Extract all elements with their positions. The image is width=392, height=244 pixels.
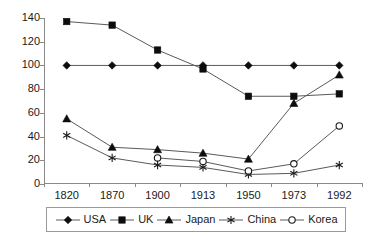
y-axis-tick-label: 80 — [12, 83, 40, 94]
x-axis-tick-label: 1820 — [45, 190, 89, 201]
legend-marker-filled-triangle — [156, 214, 182, 226]
chart-legend: USAUKJapanChinaKorea — [46, 207, 346, 232]
data-point-korea — [245, 168, 251, 174]
legend-item-japan[interactable]: Japan — [156, 214, 215, 226]
x-axis-tick-label: 1973 — [272, 190, 316, 201]
y-axis-tick-label: 0 — [12, 178, 40, 189]
y-axis-tick-label: 60 — [12, 107, 40, 118]
legend-label: Korea — [308, 214, 337, 225]
x-axis-tick-label: 1913 — [181, 190, 225, 201]
plot-area — [44, 18, 362, 184]
data-point-uk — [109, 22, 115, 28]
x-axis-tick-label: 1992 — [317, 190, 361, 201]
data-point-japan — [290, 99, 298, 106]
data-point-usa — [245, 62, 253, 70]
data-point-korea — [336, 123, 342, 129]
series-line-korea — [158, 126, 340, 171]
series-line-japan — [67, 75, 340, 159]
legend-marker-asterisk — [218, 214, 244, 226]
y-axis-tick-label: 120 — [12, 36, 40, 47]
y-axis-tick-label: 20 — [12, 154, 40, 165]
x-axis-tick-label: 1870 — [90, 190, 134, 201]
data-point-korea — [200, 158, 206, 164]
legend-marker-filled-diamond — [55, 214, 81, 226]
data-point-usa — [335, 62, 343, 70]
legend-label: Japan — [185, 214, 215, 225]
legend-marker-open-circle — [279, 214, 305, 226]
data-point-usa — [290, 62, 298, 70]
data-point-japan — [63, 115, 71, 122]
data-point-korea — [154, 155, 160, 161]
y-axis-tick-label: 140 — [12, 12, 40, 23]
data-point-japan — [335, 71, 343, 78]
data-point-uk — [291, 93, 297, 99]
data-point-japan — [108, 143, 116, 150]
legend-marker-filled-square — [109, 214, 135, 226]
data-point-uk — [200, 66, 206, 72]
x-axis-tick-label: 1950 — [226, 190, 270, 201]
legend-item-korea[interactable]: Korea — [279, 214, 337, 226]
legend-label: USA — [84, 214, 107, 225]
legend-label: UK — [138, 214, 153, 225]
data-point-uk — [336, 91, 342, 97]
data-point-china — [63, 131, 70, 139]
data-point-uk — [245, 93, 251, 99]
x-axis-tick-label: 1900 — [136, 190, 180, 201]
data-point-usa — [63, 62, 71, 70]
series-layer — [44, 18, 362, 184]
y-axis-tick-label: 40 — [12, 131, 40, 142]
series-line-uk — [67, 22, 340, 97]
data-point-usa — [154, 62, 162, 70]
legend-item-uk[interactable]: UK — [109, 214, 153, 226]
legend-label: China — [247, 214, 276, 225]
legend-item-usa[interactable]: USA — [55, 214, 107, 226]
y-axis-tick-label: 100 — [12, 59, 40, 70]
data-point-uk — [154, 47, 160, 53]
data-point-uk — [64, 18, 70, 24]
x-axis-tick — [362, 183, 363, 187]
legend-item-china[interactable]: China — [218, 214, 276, 226]
data-point-usa — [108, 62, 116, 70]
data-point-korea — [291, 161, 297, 167]
line-chart: 020406080100120140 182018701900191319501… — [0, 0, 392, 244]
